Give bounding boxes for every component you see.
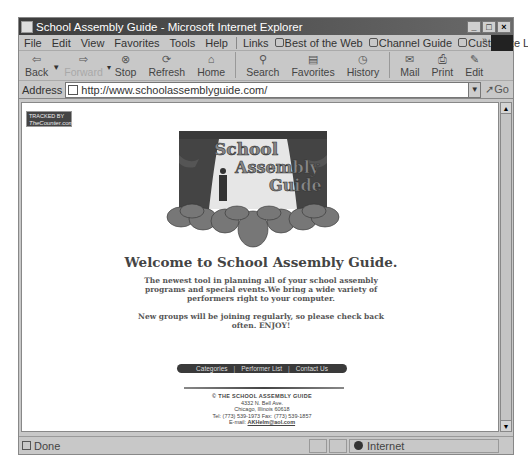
intro-paragraph: The newest tool in planning all of your … — [132, 276, 390, 303]
favorites-icon: ▤ — [308, 53, 318, 66]
favorites-button[interactable]: ▤Favorites — [285, 53, 340, 78]
scroll-up-arrow-icon[interactable]: ▲ — [501, 103, 511, 114]
menu-edit[interactable]: Edit — [47, 37, 76, 49]
window-title: School Assembly Guide - Microsoft Intern… — [36, 21, 467, 33]
refresh-button[interactable]: ⟳Refresh — [142, 53, 191, 78]
address-input[interactable]: http://www.schoolassemblyguide.com/ ▼ — [65, 82, 481, 98]
stop-icon: ⊗ — [121, 53, 130, 66]
page-done-icon — [22, 441, 31, 450]
title-bar: School Assembly Guide - Microsoft Intern… — [19, 18, 513, 35]
globe-icon — [354, 441, 363, 450]
menu-view[interactable]: View — [76, 37, 110, 49]
security-zone: Internet — [349, 439, 499, 453]
page-content: TRACKED BY TheCounter.com School Assembl… — [21, 102, 499, 432]
school-assembly-guide-logo: School Assembly Guide — [159, 125, 347, 249]
menu-help[interactable]: Help — [200, 37, 233, 49]
vertical-scrollbar[interactable]: ▲ ▼ — [500, 102, 512, 432]
page-icon — [68, 85, 78, 95]
mail-button[interactable]: ✉Mail — [394, 53, 425, 78]
address-label: Address — [19, 84, 65, 96]
go-button[interactable]: ➚Go — [481, 83, 513, 96]
nav-contact-us-link[interactable]: Contact Us — [290, 365, 334, 372]
status-panel — [309, 439, 327, 453]
forward-button[interactable]: ⇨Forward — [58, 53, 109, 78]
maximize-button[interactable]: □ — [482, 21, 496, 33]
site-nav-bar: Categories | Performer List | Contact Us — [177, 364, 347, 373]
minimize-button[interactable]: _ — [467, 21, 481, 33]
scroll-down-arrow-icon[interactable]: ▼ — [501, 420, 511, 431]
tracked-by-badge[interactable]: TRACKED BY TheCounter.com — [26, 111, 72, 127]
print-icon: ⎙ — [438, 53, 447, 66]
close-button[interactable]: × — [497, 21, 511, 33]
stop-button[interactable]: ⊗Stop — [109, 53, 143, 78]
windows-logo-throbber — [491, 35, 513, 51]
toolbar-separator — [235, 52, 236, 78]
address-dropdown-icon[interactable]: ▼ — [468, 83, 480, 97]
standard-toolbar: ⇦Back ▼ ⇨Forward ▾ ⊗Stop ⟳Refresh ⌂Home … — [19, 51, 513, 81]
menu-bar: File Edit View Favorites Tools Help Link… — [19, 35, 513, 51]
link-channel-guide[interactable]: Channel Guide — [366, 37, 455, 49]
forward-arrow-icon: ⇨ — [79, 53, 88, 66]
edit-icon: ✎ — [470, 53, 479, 66]
welcome-heading: Welcome to School Assembly Guide. — [22, 254, 499, 270]
search-icon: ⚲ — [259, 53, 267, 66]
link-page-icon — [458, 38, 467, 47]
home-button[interactable]: ⌂Home — [191, 53, 231, 78]
toolbar-separator — [389, 52, 390, 78]
more-links-chevron-icon[interactable]: » — [482, 35, 487, 45]
email-link[interactable]: AKHelm@aol.com — [248, 419, 296, 425]
footer: © THE SCHOOL ASSEMBLY GUIDE 4332 N. Bell… — [152, 393, 372, 426]
links-separator — [236, 37, 237, 49]
svg-text:Guide: Guide — [269, 176, 322, 195]
new-groups-paragraph: New groups will be joining regularly, so… — [132, 312, 390, 330]
menu-file[interactable]: File — [19, 37, 47, 49]
link-best-of-web[interactable]: Best of the Web — [272, 37, 366, 49]
link-page-icon — [275, 38, 284, 47]
status-bar: Done Internet — [19, 436, 513, 454]
status-text: Done — [34, 440, 60, 452]
menu-tools[interactable]: Tools — [165, 37, 201, 49]
nav-categories-link[interactable]: Categories — [190, 365, 233, 372]
back-arrow-icon: ⇦ — [32, 53, 41, 66]
edit-button[interactable]: ✎Edit — [459, 53, 489, 78]
address-bar: Address http://www.schoolassemblyguide.c… — [19, 81, 513, 99]
status-panel — [329, 439, 347, 453]
back-button[interactable]: ⇦Back — [19, 53, 54, 78]
nav-performer-list-link[interactable]: Performer List — [235, 365, 288, 372]
history-button[interactable]: ◷History — [341, 53, 386, 78]
print-button[interactable]: ⎙Print — [426, 53, 460, 78]
search-button[interactable]: ⚲Search — [240, 53, 285, 78]
refresh-icon: ⟳ — [162, 53, 171, 66]
footer-divider — [184, 387, 344, 389]
history-icon: ◷ — [358, 53, 368, 66]
link-page-icon — [369, 38, 378, 47]
links-label[interactable]: Links — [240, 37, 272, 49]
svg-text:School: School — [214, 139, 279, 159]
svg-text:Assembly: Assembly — [234, 158, 320, 177]
home-icon: ⌂ — [208, 53, 215, 66]
ie-app-icon — [21, 21, 33, 33]
menu-favorites[interactable]: Favorites — [109, 37, 164, 49]
browser-window: School Assembly Guide - Microsoft Intern… — [18, 17, 514, 455]
address-url: http://www.schoolassemblyguide.com/ — [81, 84, 267, 96]
mail-icon: ✉ — [405, 53, 414, 66]
footer-email-line: E-mail: AKHelm@aol.com — [152, 419, 372, 426]
